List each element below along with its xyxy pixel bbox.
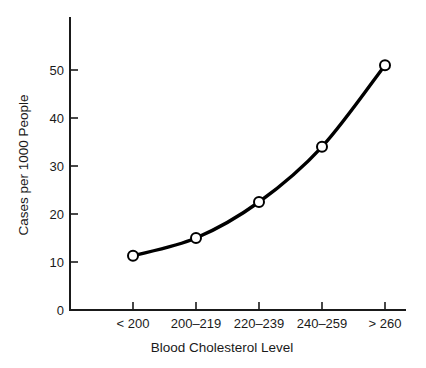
y-tick-label-40: 40 <box>50 111 64 126</box>
x-tick-label-4: 240–259 <box>297 316 348 331</box>
x-tick-label-2: 200–219 <box>171 316 222 331</box>
y-tick-label-30: 30 <box>50 159 64 174</box>
series-line-cases <box>133 65 385 256</box>
x-axis-title: Blood Cholesterol Level <box>151 340 294 355</box>
y-tick-label-0: 0 <box>57 303 64 318</box>
y-tick-label-20: 20 <box>50 207 64 222</box>
data-point-marker <box>191 233 201 243</box>
data-point-marker <box>128 251 138 261</box>
line-chart: 0 10 20 30 40 50 < 200 200–219 220–239 2… <box>0 0 426 368</box>
y-axis-title: Cases per 1000 People <box>16 94 31 235</box>
x-tick-label-1: < 200 <box>117 316 150 331</box>
x-tick-label-5: > 260 <box>369 316 402 331</box>
x-tick-label-3: 220–239 <box>234 316 285 331</box>
data-point-marker <box>380 60 390 70</box>
data-point-markers <box>128 60 390 261</box>
chart-canvas: 0 10 20 30 40 50 < 200 200–219 220–239 2… <box>0 0 426 368</box>
y-tick-label-50: 50 <box>50 63 64 78</box>
data-point-marker <box>317 142 327 152</box>
data-point-marker <box>254 197 264 207</box>
y-tick-label-10: 10 <box>50 255 64 270</box>
